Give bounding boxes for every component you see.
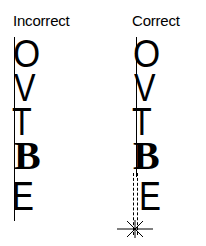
incorrect-column-label: Incorrect <box>13 12 70 30</box>
correct-column-label: Correct <box>132 12 180 30</box>
incorrect-letter-e: E <box>12 176 34 216</box>
asterisk-marker-icon <box>115 219 155 239</box>
incorrect-letter-b: B <box>14 136 41 176</box>
correct-letter-e: E <box>139 176 161 216</box>
correct-letter-b: B <box>133 136 160 176</box>
